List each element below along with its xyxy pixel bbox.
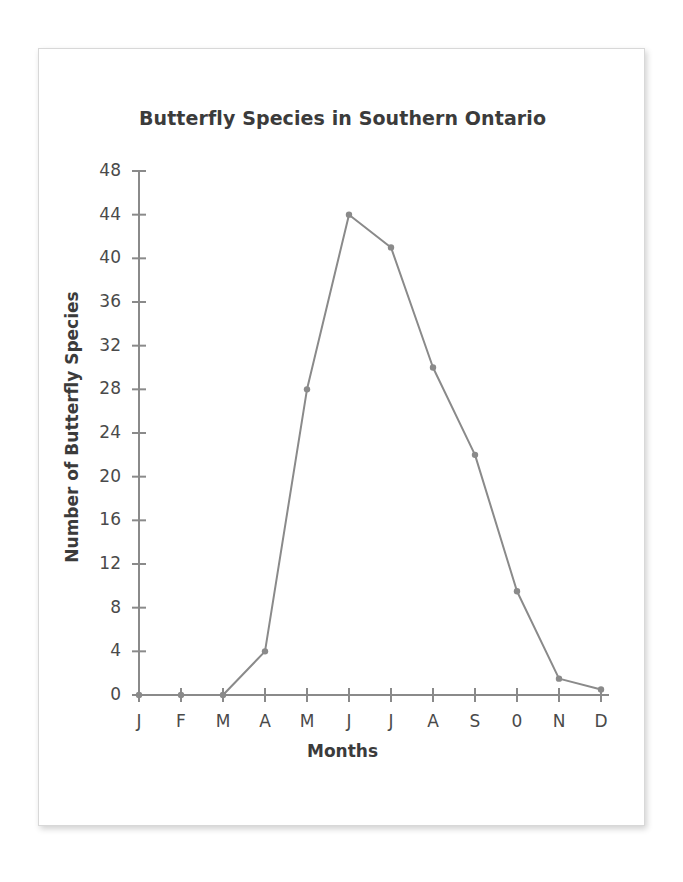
y-tick-label: 48 (87, 162, 121, 179)
plot-area: 04812162024283236404448 JFMAMJJAS0ND (39, 49, 646, 827)
x-tick-label: J (336, 713, 362, 730)
y-tick-label: 4 (87, 642, 121, 659)
x-tick-label: D (588, 713, 614, 730)
x-tick-label: M (210, 713, 236, 730)
data-point-marker (556, 675, 562, 681)
x-tick-label: S (462, 713, 488, 730)
y-tick-label: 44 (87, 206, 121, 223)
y-tick-label: 12 (87, 555, 121, 572)
data-point-marker (472, 452, 478, 458)
y-tick-label: 36 (87, 293, 121, 310)
data-point-marker (388, 244, 394, 250)
tick-marks-group (132, 171, 601, 702)
chart-card: Butterfly Species in Southern Ontario Nu… (38, 48, 645, 826)
data-point-marker (262, 648, 268, 654)
x-tick-label: F (168, 713, 194, 730)
data-point-marker (598, 686, 604, 692)
x-tick-label: 0 (504, 713, 530, 730)
data-point-marker (220, 692, 226, 698)
x-tick-label: N (546, 713, 572, 730)
data-point-marker (136, 692, 142, 698)
y-tick-label: 0 (87, 686, 121, 703)
data-point-marker (346, 211, 352, 217)
y-tick-label: 8 (87, 599, 121, 616)
x-tick-label: A (420, 713, 446, 730)
data-point-marker (178, 692, 184, 698)
data-point-marker (514, 588, 520, 594)
y-tick-label: 16 (87, 511, 121, 528)
y-tick-label: 20 (87, 468, 121, 485)
y-tick-label: 40 (87, 249, 121, 266)
page-root: Butterfly Species in Southern Ontario Nu… (0, 0, 683, 882)
data-point-marker (304, 386, 310, 392)
x-tick-label: A (252, 713, 278, 730)
y-tick-label: 28 (87, 380, 121, 397)
axis-group (139, 171, 609, 695)
data-series-line (139, 215, 601, 695)
y-tick-label: 32 (87, 337, 121, 354)
y-tick-label: 24 (87, 424, 121, 441)
x-tick-label: J (378, 713, 404, 730)
data-point-marker (430, 364, 436, 370)
x-tick-label: J (126, 713, 152, 730)
x-tick-label: M (294, 713, 320, 730)
